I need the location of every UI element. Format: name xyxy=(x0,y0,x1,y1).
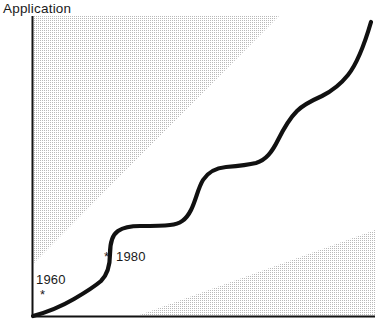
annotation-label-1960: 1960 xyxy=(36,272,66,287)
chart-figure: Application 1960 * * 1980 xyxy=(0,0,379,327)
annotation-label-1980: 1980 xyxy=(116,249,146,264)
shaded-corridor-group xyxy=(32,16,375,317)
annotation-marker-1980: * xyxy=(104,250,109,263)
annotation-marker-1960: * xyxy=(40,288,45,301)
lower-stipple-region xyxy=(134,230,375,317)
